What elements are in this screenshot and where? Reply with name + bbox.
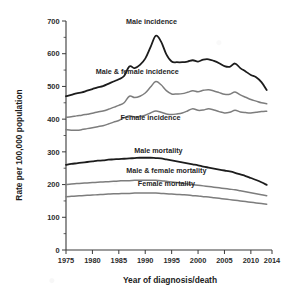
series-label-3: Male mortality: [134, 146, 182, 155]
y-tick-label: 600: [47, 49, 59, 58]
x-tick-label: 1975: [58, 256, 74, 265]
series-label-0: Male incidence: [126, 17, 177, 26]
y-tick-label: 500: [47, 82, 59, 91]
y-tick-label: 200: [47, 180, 59, 189]
x-tick-label: 2005: [216, 256, 232, 265]
x-tick-label: 1980: [84, 256, 100, 265]
x-tick-label: 2014: [264, 256, 281, 265]
x-tick-label: 1990: [137, 256, 153, 265]
x-tick-label: 2000: [190, 256, 206, 265]
y-tick-label: 0: [55, 246, 59, 255]
x-tick-label: 2010: [243, 256, 259, 265]
x-tick-label: 1995: [163, 256, 179, 265]
y-tick-label: 300: [47, 148, 59, 157]
y-tick-label: 100: [47, 213, 59, 222]
series-label-1: Male & female incidence: [96, 67, 179, 76]
y-tick-label: 700: [47, 17, 59, 26]
incidence-mortality-chart: 0100200300400500600700 19751980198519901…: [0, 0, 288, 305]
y-axis-title: Rate per 100,000 population: [14, 89, 24, 200]
series-label-4: Male & female mortality: [126, 166, 206, 175]
caption-fragment: [44, 286, 270, 300]
y-tick-label: 400: [47, 115, 59, 124]
x-axis-title: Year of diagnosis/death: [123, 275, 217, 285]
series-label-5: Female mortality: [138, 179, 195, 188]
x-tick-label: 1985: [111, 256, 127, 265]
series-label-2: Female incidence: [121, 113, 181, 122]
